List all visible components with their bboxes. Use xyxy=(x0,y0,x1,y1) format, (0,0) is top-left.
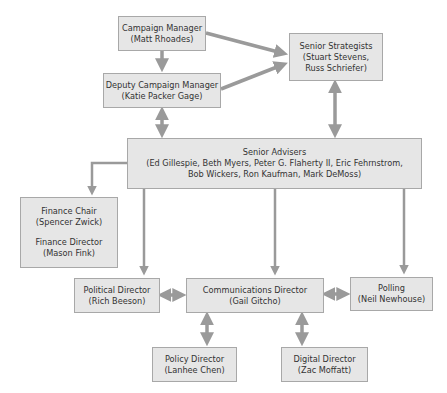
node-campaign-manager: Campaign Manager (Matt Rhoades) xyxy=(118,16,206,51)
node-title: Senior Strategists xyxy=(300,41,373,52)
node-finance: Finance Chair (Spencer Zwick) Finance Di… xyxy=(20,197,118,268)
node-people: Russ Schriefer) xyxy=(305,63,367,74)
node-people: (Rich Beeson) xyxy=(89,296,146,307)
node-title: Finance Chair xyxy=(41,206,97,217)
node-senior-strategists: Senior Strategists (Stuart Stevens, Russ… xyxy=(289,33,383,81)
node-people: (Neil Newhouse) xyxy=(358,294,425,305)
node-people: (Mason Fink) xyxy=(43,248,95,259)
node-people: (Stuart Stevens, xyxy=(303,52,369,63)
node-policy-director: Policy Director (Lanhee Chen) xyxy=(152,347,237,382)
node-polling: Polling (Neil Newhouse) xyxy=(350,277,433,311)
node-title: Campaign Manager xyxy=(122,23,202,34)
node-people: (Matt Rhoades) xyxy=(131,34,194,45)
node-title: Deputy Campaign Manager xyxy=(106,80,218,91)
node-digital-director: Digital Director (Zac Moffatt) xyxy=(281,347,368,382)
node-people: (Spencer Zwick) xyxy=(36,217,102,228)
node-people: (Zac Moffatt) xyxy=(298,365,351,376)
node-title: Communications Director xyxy=(203,285,307,296)
arrow-cm-to-strategists xyxy=(206,33,282,53)
node-title: Digital Director xyxy=(293,354,355,365)
node-people: Bob Wickers, Ron Kaufman, Mark DeMoss) xyxy=(188,169,361,180)
node-people: (Ed Gillespie, Beth Myers, Peter G. Flah… xyxy=(146,158,403,169)
node-title: Policy Director xyxy=(165,354,224,365)
node-title: Political Director xyxy=(84,285,151,296)
arrow-deputy-to-strategists xyxy=(221,65,282,89)
node-title: Finance Director xyxy=(36,237,103,248)
node-people: (Gail Gitcho) xyxy=(229,296,280,307)
arrow-advisers-to-finance xyxy=(92,163,128,191)
node-deputy-campaign-manager: Deputy Campaign Manager (Katie Packer Ga… xyxy=(103,73,221,108)
node-senior-advisers: Senior Advisers (Ed Gillespie, Beth Myer… xyxy=(127,138,422,189)
node-communications-director: Communications Director (Gail Gitcho) xyxy=(186,278,324,313)
node-people: (Lanhee Chen) xyxy=(164,365,224,376)
node-title: Senior Advisers xyxy=(243,147,306,158)
node-political-director: Political Director (Rich Beeson) xyxy=(74,278,160,313)
node-people: (Katie Packer Gage) xyxy=(122,91,203,102)
node-title: Polling xyxy=(378,283,405,294)
